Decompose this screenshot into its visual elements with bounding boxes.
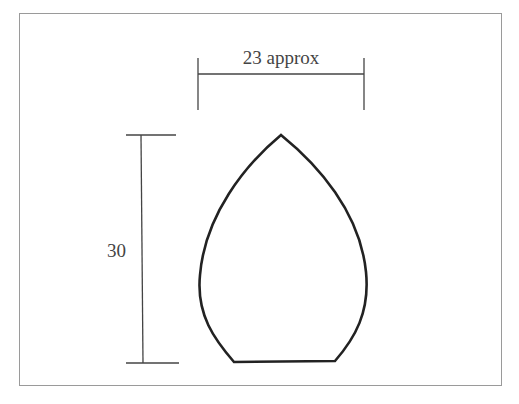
diagram-canvas: 23 approx 30 — [0, 0, 519, 404]
height-label: 30 — [107, 240, 126, 261]
arch-shape — [199, 135, 366, 362]
width-label: 23 approx — [243, 47, 320, 68]
height-dimension — [126, 135, 179, 363]
